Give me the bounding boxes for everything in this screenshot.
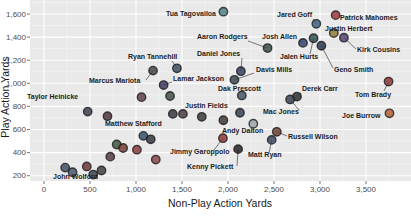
point-label: Patrick Mahomes <box>340 14 398 21</box>
point-label: Dak Prescott <box>218 85 261 92</box>
data-point[interactable] <box>106 152 114 160</box>
y-tick-label: 1,400 <box>6 33 27 42</box>
x-tick-label: 3,000 <box>310 185 331 194</box>
data-point-davis-mills[interactable] <box>230 76 238 84</box>
point-label: Jalen Hurts <box>280 53 318 60</box>
point-label: Marcus Mariota <box>89 77 140 84</box>
y-tick-label: 200 <box>13 171 27 180</box>
data-point-john-wolford[interactable] <box>61 163 69 171</box>
point-label: Andy Dalton <box>222 127 263 135</box>
point-label: Justin Herbert <box>325 25 373 32</box>
data-point-taylor-heinicke[interactable] <box>137 93 145 101</box>
data-point-jalen-hurts[interactable] <box>309 34 317 42</box>
point-label: Kenny Pickett <box>187 163 234 171</box>
point-label: Ryan Tannehill <box>128 53 177 61</box>
point-label: Aaron Rodgers <box>197 33 248 41</box>
data-point-mac-jones[interactable] <box>286 95 294 103</box>
data-point[interactable] <box>219 116 227 124</box>
data-point-matt-ryan[interactable] <box>268 136 276 144</box>
data-point[interactable] <box>179 110 187 118</box>
y-tick-label: 800 <box>13 102 27 111</box>
data-point[interactable] <box>83 162 91 170</box>
x-tick-label: 2,500 <box>264 185 285 194</box>
data-point[interactable] <box>97 166 105 174</box>
point-label: Joe Burrow <box>342 112 381 119</box>
data-point-marcus-mariota[interactable] <box>149 66 157 74</box>
data-point-tom-brady[interactable] <box>384 77 392 85</box>
data-point-kirk-cousins[interactable] <box>340 33 348 41</box>
data-point-dak-prescott[interactable] <box>238 91 246 99</box>
data-point-geno-smith[interactable] <box>317 42 325 50</box>
point-label: Jimmy Garoppolo <box>170 148 230 156</box>
data-point-patrick-mahomes[interactable] <box>331 11 339 19</box>
data-point-josh-allen[interactable] <box>299 39 307 47</box>
data-point[interactable] <box>236 109 244 117</box>
data-point[interactable] <box>198 113 206 121</box>
y-axis-title: Play Action Yards <box>0 56 11 137</box>
point-label: Jared Goff <box>277 11 313 18</box>
x-tick-label: 1,500 <box>172 185 193 194</box>
data-point-daniel-jones[interactable] <box>237 67 245 75</box>
point-label: Lamar Jackson <box>173 75 224 82</box>
play-action-scatter-chart: Tua TagovailoaJared GoffPatrick MahomesJ… <box>0 0 411 217</box>
data-point-joe-burrow[interactable] <box>385 109 393 117</box>
data-point-justin-fields[interactable] <box>169 110 177 118</box>
x-axis-title: Non-Play Action Yards <box>168 197 272 209</box>
point-label: Geno Smith <box>334 66 373 73</box>
point-label: Derek Carr <box>302 85 338 92</box>
data-point-jimmy-garoppolo[interactable] <box>219 134 227 142</box>
point-label: Taylor Heinicke <box>27 93 78 101</box>
point-label: Josh Allen <box>262 33 297 40</box>
y-tick-label: 600 <box>13 125 27 134</box>
point-label: Daniel Jones <box>197 50 240 57</box>
x-tick-label: 500 <box>83 185 97 194</box>
x-tick-label: 2,000 <box>218 185 239 194</box>
point-label: Kirk Cousins <box>357 46 400 53</box>
data-point-tua-tagovailoa[interactable] <box>219 7 227 15</box>
point-label: Matthew Stafford <box>105 120 162 127</box>
point-label: Tom Brady <box>355 91 391 99</box>
point-label: Justin Fields <box>185 102 228 109</box>
point-label: John Wolford <box>53 173 98 180</box>
data-point-ryan-tannehill[interactable] <box>173 64 181 72</box>
x-tick-label: 3,500 <box>356 185 377 194</box>
data-point-kenny-pickett[interactable] <box>234 145 242 153</box>
data-point[interactable] <box>133 146 141 154</box>
x-tick-label: 1,000 <box>126 185 147 194</box>
point-label: Russell Wilson <box>288 133 338 140</box>
point-label: Mac Jones <box>263 108 299 115</box>
point-label: Davis Mills <box>256 66 292 73</box>
data-point-matthew-stafford[interactable] <box>139 132 147 140</box>
y-tick-label: 1,600 <box>6 10 27 19</box>
data-point-russell-wilson[interactable] <box>273 128 281 136</box>
data-point[interactable] <box>119 144 127 152</box>
data-point[interactable] <box>152 155 160 163</box>
data-point[interactable] <box>84 107 92 115</box>
point-label: Matt Ryan <box>248 151 281 159</box>
scatter-plot-figure: Tua TagovailoaJared GoffPatrick MahomesJ… <box>0 0 411 217</box>
y-tick-label: 400 <box>13 148 27 157</box>
data-point[interactable] <box>166 92 174 100</box>
data-point-jared-goff[interactable] <box>312 20 320 28</box>
point-label: Tua Tagovailoa <box>166 10 216 18</box>
data-point-aaron-rodgers[interactable] <box>263 44 271 52</box>
x-tick-label: 0 <box>42 185 47 194</box>
data-point-lamar-jackson[interactable] <box>159 81 167 89</box>
